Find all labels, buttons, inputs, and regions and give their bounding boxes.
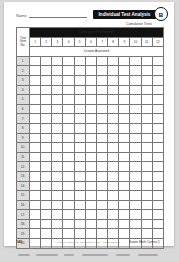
lesson-cell: [108, 104, 119, 114]
lesson-cell: [96, 191, 107, 201]
lesson-cell: [119, 162, 130, 172]
column-header-3: 3: [52, 37, 63, 47]
lesson-cell: [141, 191, 152, 201]
lesson-cell: [141, 104, 152, 114]
lesson-cell: [74, 171, 85, 181]
lesson-cell: [41, 143, 52, 153]
lesson-cell: [52, 162, 63, 172]
lesson-cell: [108, 95, 119, 105]
item-number: 5.: [17, 95, 30, 105]
lesson-cell: [108, 219, 119, 229]
column-header-11: 11: [141, 37, 152, 47]
lesson-cell: [119, 152, 130, 162]
lesson-cell: [152, 191, 163, 201]
lesson-cell: [130, 123, 141, 133]
lesson-cell: [74, 56, 85, 66]
lesson-cell: [130, 162, 141, 172]
lesson-cell: [119, 143, 130, 153]
lesson-cell: [152, 104, 163, 114]
lesson-cell: [141, 114, 152, 124]
column-header-6: 6: [85, 37, 96, 47]
lesson-cell: [119, 210, 130, 220]
lesson-cell: [30, 123, 41, 133]
book-title: Saxon Math Course 1: [129, 240, 160, 244]
lesson-cell: [52, 56, 63, 66]
item-number: 11.: [17, 152, 30, 162]
lesson-cell: [63, 133, 74, 143]
lesson-cell: [130, 56, 141, 66]
analysis-table: Test Item No. Cumulative Test Number 123…: [16, 27, 164, 249]
table-row: 11.: [17, 152, 164, 162]
lesson-cell: [130, 143, 141, 153]
table-row: 1.: [17, 56, 164, 66]
item-number: 18.: [17, 219, 30, 229]
lesson-cell: [41, 85, 52, 95]
lesson-cell: [63, 162, 74, 172]
lesson-cell: [119, 114, 130, 124]
lesson-cell: [96, 123, 107, 133]
lesson-cell: [130, 219, 141, 229]
lesson-cell: [41, 162, 52, 172]
lesson-cell: [52, 143, 63, 153]
item-number: 8.: [17, 123, 30, 133]
table-row: 14.: [17, 181, 164, 191]
lesson-cell: [30, 181, 41, 191]
lesson-cell: [63, 210, 74, 220]
form-badge: B: [154, 7, 168, 21]
lesson-cell: [41, 66, 52, 76]
lesson-cell: [108, 85, 119, 95]
page-number: 140: [16, 240, 22, 244]
lesson-cell: [119, 75, 130, 85]
lesson-cell: [130, 210, 141, 220]
lesson-cell: [141, 75, 152, 85]
lesson-cell: [52, 75, 63, 85]
column-header-10: 10: [130, 37, 141, 47]
lesson-cell: [108, 133, 119, 143]
lesson-cell: [85, 191, 96, 201]
lesson-cell: [30, 171, 41, 181]
column-header-2: 2: [41, 37, 52, 47]
name-line[interactable]: [29, 17, 87, 18]
lesson-cell: [152, 210, 163, 220]
lesson-cell: [119, 56, 130, 66]
lesson-cell: [63, 219, 74, 229]
lesson-cell: [119, 104, 130, 114]
lesson-cell: [96, 85, 107, 95]
name-field-row: Name: [16, 13, 87, 18]
lesson-cell: [85, 171, 96, 181]
item-number: 13.: [17, 171, 30, 181]
lesson-cell: [141, 133, 152, 143]
lesson-cell: [30, 162, 41, 172]
table-row: 4.: [17, 85, 164, 95]
lesson-cell: [30, 191, 41, 201]
lesson-cell: [96, 200, 107, 210]
lesson-cell: [30, 75, 41, 85]
lesson-cell: [141, 95, 152, 105]
column-header-7: 7: [96, 37, 107, 47]
lesson-cell: [41, 191, 52, 201]
lesson-cell: [63, 56, 74, 66]
lesson-cell: [85, 219, 96, 229]
table-row: 19.: [17, 229, 164, 239]
lesson-cell: [63, 104, 74, 114]
lesson-cell: [119, 133, 130, 143]
lesson-cell: [108, 152, 119, 162]
lesson-cell: [96, 114, 107, 124]
lesson-cell: [41, 210, 52, 220]
lesson-cell: [96, 56, 107, 66]
lesson-cell: [41, 133, 52, 143]
lesson-cell: [74, 219, 85, 229]
lesson-cell: [41, 75, 52, 85]
table-row: 7.: [17, 114, 164, 124]
lesson-cell: [85, 95, 96, 105]
lesson-cell: [130, 104, 141, 114]
lesson-cell: [52, 133, 63, 143]
lesson-cell: [141, 171, 152, 181]
lesson-cell: [108, 123, 119, 133]
lesson-cell: [141, 85, 152, 95]
lesson-cell: [63, 75, 74, 85]
lesson-cell: [30, 143, 41, 153]
worksheet-page: Name Individual Test Analysis Form B Cum…: [4, 2, 174, 246]
lesson-cell: [85, 143, 96, 153]
table-row: 10.: [17, 143, 164, 153]
